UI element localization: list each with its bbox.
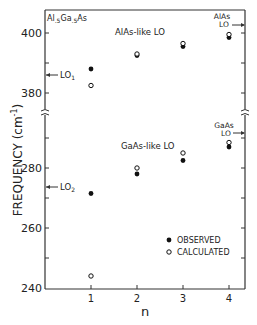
x-tick-label-4: 4	[226, 293, 232, 304]
lo2-annotation: LO2	[46, 182, 75, 193]
y-tick-label-240: 240	[21, 282, 42, 295]
alas-lo-annotation: AlAs LO	[214, 12, 245, 29]
y-tick-label-400: 400	[21, 27, 42, 40]
x-tick-label-2: 2	[134, 293, 140, 304]
svg-text:LO: LO	[219, 20, 229, 29]
gaas-lo-annotation: GaAs LO	[214, 121, 245, 138]
y-tick-label-380: 380	[21, 87, 42, 100]
x-axis-title: n	[141, 304, 149, 319]
x-tick-label-3: 3	[180, 293, 186, 304]
calculated-point	[181, 41, 185, 45]
svg-text:LO2: LO2	[60, 182, 75, 193]
calculated-point	[181, 151, 185, 155]
calculated-point	[227, 140, 231, 144]
y-axis-title: FREQUENCY (cm-1)	[10, 104, 25, 217]
legend-calculated-marker	[167, 250, 171, 254]
legend-calculated-label: CALCULATED	[177, 248, 230, 257]
calculated-point	[89, 274, 93, 278]
x-tick-label-1: 1	[88, 293, 94, 304]
y-axis-title-sup: -1	[10, 108, 19, 116]
composition-label: Al.5Ga.5As	[47, 14, 87, 24]
y-axis-title-end: )	[11, 104, 25, 109]
lo1-annotation: LO1	[46, 70, 75, 81]
observed-point	[181, 158, 186, 163]
observed-point	[89, 191, 94, 196]
calculated-point	[135, 52, 139, 56]
calculated-point	[227, 32, 231, 36]
y-tick-label-260: 260	[21, 222, 42, 235]
gaas-like-label: GaAs-like LO	[121, 141, 175, 151]
y-axis-title-main: FREQUENCY (cm	[11, 116, 25, 216]
observed-point	[135, 172, 140, 177]
svg-text:LO1: LO1	[60, 70, 75, 81]
calculated-point	[89, 83, 93, 87]
calculated-point	[135, 166, 139, 170]
axis-break-right	[241, 109, 249, 115]
svg-text:LO: LO	[221, 129, 231, 138]
legend: OBSERVED CALCULATED	[167, 236, 230, 257]
axis-break-left	[41, 109, 49, 115]
observed-point	[227, 145, 232, 150]
observed-point	[89, 67, 94, 72]
frequency-chart: 400 380 280 260 240 1 2 3 4 n FREQUENCY …	[0, 0, 257, 325]
legend-observed-label: OBSERVED	[177, 236, 221, 245]
alas-like-label: AlAs-like LO	[115, 27, 165, 37]
legend-observed-marker	[167, 238, 172, 243]
